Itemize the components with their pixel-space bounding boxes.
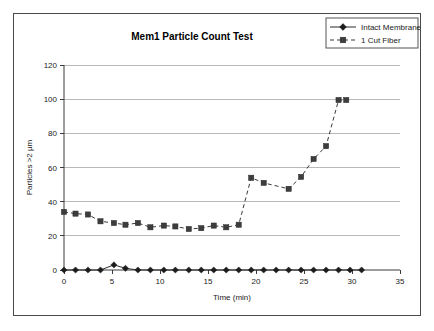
data-point [311,267,317,273]
data-point [223,267,229,273]
xtick-label-20: 20 [252,277,261,286]
xtick-label-15: 15 [204,277,213,286]
data-point [224,225,229,230]
data-point [323,267,329,273]
data-point [147,267,153,273]
ytick-label-0: 0 [53,266,58,275]
data-point [359,267,365,273]
data-point [161,267,167,273]
data-point [311,156,316,161]
data-point [173,224,178,229]
data-point [198,267,204,273]
data-point [344,97,349,102]
data-point [172,267,178,273]
data-point [148,225,153,230]
legend-label-0: Intact Membrane [361,23,420,32]
xtick-label-25: 25 [300,277,309,286]
data-point [199,226,204,231]
data-point [186,267,192,273]
data-point [335,267,341,273]
data-point [236,222,241,227]
data-point [97,267,103,273]
data-point [61,267,67,273]
xtick-label-5: 5 [110,277,115,286]
data-point [286,267,292,273]
y-axis-title: Particles >2 µm [25,139,34,195]
data-point [135,267,141,273]
xtick-label-0: 0 [62,277,67,286]
ytick-label-60: 60 [48,164,57,173]
data-point [98,219,103,224]
data-point [261,267,267,273]
data-point [73,211,78,216]
data-point [248,267,254,273]
data-point [85,267,91,273]
data-point [249,175,254,180]
data-point [298,267,304,273]
series-line-1 [64,100,346,229]
data-point [323,144,328,149]
ytick-label-80: 80 [48,129,57,138]
data-point [111,262,117,268]
xtick-label-30: 30 [348,277,357,286]
data-point [186,226,191,231]
particle-count-chart: Mem1 Particle Count Test0204060801001200… [14,14,420,315]
data-point [336,97,341,102]
data-point [236,267,242,273]
ytick-label-120: 120 [44,61,58,70]
ytick-label-40: 40 [48,198,57,207]
data-point [286,186,291,191]
data-point [111,220,116,225]
data-point [72,267,78,273]
chart-title: Mem1 Particle Count Test [131,31,253,42]
data-point [85,212,90,217]
legend-marker-square [340,37,346,43]
data-point [61,209,66,214]
data-point [123,222,128,227]
legend-label-1: 1 Cut Fiber [361,36,401,45]
data-point [273,267,279,273]
xtick-label-10: 10 [156,277,165,286]
data-point [161,223,166,228]
ytick-label-20: 20 [48,232,57,241]
data-point [261,180,266,185]
data-point [135,220,140,225]
x-axis-title: Time (min) [213,293,251,302]
ytick-label-100: 100 [44,95,58,104]
chart-figure: Mem1 Particle Count Test0204060801001200… [0,0,434,331]
data-point [299,174,304,179]
data-point [211,223,216,228]
chart-frame: Mem1 Particle Count Test0204060801001200… [13,13,421,316]
xtick-label-35: 35 [396,277,405,286]
data-point [211,267,217,273]
